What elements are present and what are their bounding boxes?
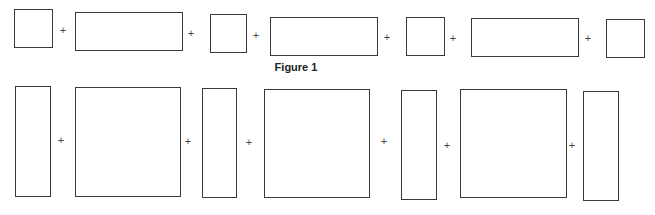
bottom-row-plus-icon-2: + (185, 136, 191, 147)
top-row-box-2 (75, 12, 183, 51)
bottom-row-plus-icon-5: + (444, 140, 450, 151)
top-row-box-4 (270, 17, 378, 56)
bottom-row-box-4 (264, 89, 370, 198)
bottom-row-box-5 (401, 90, 437, 200)
bottom-row-plus-icon-6: + (569, 140, 575, 151)
bottom-row-box-3 (202, 88, 237, 198)
top-row-plus-icon-5: + (450, 33, 456, 44)
bottom-row-plus-icon-4: + (381, 136, 387, 147)
top-row-plus-icon-2: + (188, 28, 194, 39)
bottom-row-box-2 (75, 87, 181, 197)
top-row-plus-icon-6: + (585, 33, 591, 44)
figure-caption: Figure 1 (275, 61, 318, 73)
top-row-plus-icon-3: + (253, 30, 259, 41)
top-row-plus-icon-1: + (60, 25, 66, 36)
top-row-plus-icon-4: + (384, 32, 390, 43)
top-row-box-5 (406, 17, 445, 56)
bottom-row-plus-icon-1: + (58, 135, 64, 146)
bottom-row-box-7 (583, 91, 619, 201)
bottom-row-box-1 (15, 86, 51, 197)
bottom-row-box-6 (460, 89, 567, 198)
bottom-row-plus-icon-3: + (246, 137, 252, 148)
top-row-box-6 (471, 18, 579, 57)
top-row-box-7 (606, 19, 645, 58)
top-row-box-3 (210, 14, 247, 53)
top-row-box-1 (14, 9, 53, 48)
